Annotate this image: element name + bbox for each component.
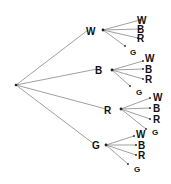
root-dot — [15, 84, 18, 87]
leaf-line — [121, 108, 150, 109]
node-dot — [105, 144, 108, 147]
leaf-label: G — [136, 88, 142, 97]
leaf-line — [121, 109, 150, 119]
leaf-line — [106, 136, 134, 145]
leaf-label: W — [153, 92, 163, 103]
leaf-line — [106, 145, 136, 155]
node-dot — [102, 29, 105, 32]
leaf-dot — [149, 97, 151, 99]
node-dot — [120, 108, 123, 111]
leaf-dot — [133, 135, 135, 137]
leaf-label: R — [138, 150, 146, 161]
leaf-label: G — [152, 128, 158, 137]
leaf-line — [112, 61, 143, 70]
leaf-label: R — [137, 33, 145, 44]
node-dot — [111, 69, 114, 72]
leaf-label: R — [145, 74, 153, 85]
leaf-line — [103, 29, 140, 30]
leaf-label: G — [130, 48, 136, 57]
leaf-dot — [124, 45, 126, 47]
leaf-dot — [142, 68, 144, 70]
branch-line — [16, 69, 97, 85]
leaf-label: W — [136, 129, 146, 140]
branch-line — [16, 85, 106, 109]
node-label: W — [86, 26, 96, 37]
node-label: R — [104, 105, 112, 116]
node-label: B — [95, 65, 102, 76]
leaf-label: G — [134, 165, 140, 174]
leaf-line — [106, 145, 128, 164]
leaf-line — [121, 98, 150, 109]
leaf-line — [112, 69, 143, 70]
leaf-dot — [149, 107, 151, 109]
leaf-dot — [135, 144, 137, 146]
leaf-dot — [129, 85, 131, 87]
tree-diagram-svg: WBRGWWBRGBWBRGRWBRGG — [0, 0, 171, 184]
leaf-label: W — [145, 53, 155, 64]
leaf-dot — [127, 163, 129, 165]
leaf-line — [103, 20, 140, 30]
leaf-label: R — [153, 114, 161, 125]
tree-diagram: WBRGWWBRGBWBRGRWBRGG — [0, 0, 171, 184]
leaf-dot — [142, 78, 144, 80]
leaf-dot — [142, 60, 144, 62]
leaf-label: B — [153, 103, 160, 114]
leaf-dot — [135, 154, 137, 156]
leaf-dot — [149, 118, 151, 120]
branch-line — [16, 85, 94, 144]
leaf-line — [121, 109, 146, 129]
branch-line — [16, 30, 88, 85]
node-label: G — [92, 140, 100, 151]
